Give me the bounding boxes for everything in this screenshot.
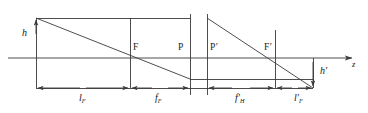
ray-through-front-focus <box>36 18 190 79</box>
optical-ray-diagram: h F P P′ F′ h′ z lF fF f′H l′F <box>0 0 368 113</box>
dim-subscript: F <box>299 97 303 104</box>
dimension-label-rear-focal-length: f′H <box>235 93 244 104</box>
image-height-prime: ′ <box>325 65 327 76</box>
dim-subscript: F <box>158 97 162 104</box>
rear-focal-point-label: F′ <box>264 43 271 53</box>
dimension-label-rear-focal-distance: l′F <box>294 93 303 104</box>
object-height-label: h <box>22 28 27 38</box>
dim-subscript: F <box>82 97 86 104</box>
rear-principal-plane-prime: ′ <box>215 42 217 52</box>
image-height-label: h′ <box>320 66 327 76</box>
dimension-label-front-focal-distance: lF <box>79 93 86 104</box>
front-principal-plane-label: P <box>178 43 183 53</box>
dim-subscript: H <box>240 97 244 104</box>
rear-focal-point-prime: ′ <box>269 42 271 52</box>
front-focal-point-label: F <box>133 43 138 53</box>
dimension-label-front-focal-length: fF <box>155 93 162 104</box>
axis-label: z <box>352 60 355 69</box>
rear-principal-plane-label: P′ <box>210 43 217 53</box>
ray-through-rear-focus <box>207 18 313 88</box>
diagram-canvas <box>0 0 368 113</box>
